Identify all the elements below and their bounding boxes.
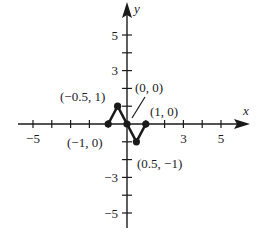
- y-tick-label: 3: [112, 63, 119, 78]
- data-point: [114, 103, 121, 110]
- chart: xy −53553−3−5 (−1, 0)(−0.5, 1)(0, 0)(0.5…: [0, 0, 260, 237]
- point-label: (1, 0): [150, 104, 178, 119]
- y-tick-label: −3: [104, 170, 118, 185]
- data-point: [133, 138, 140, 145]
- x-tick-label: 5: [218, 131, 225, 146]
- x-tick-label: 3: [180, 131, 187, 146]
- point-labels: (−1, 0)(−0.5, 1)(0, 0)(0.5, −1)(1, 0): [60, 80, 182, 171]
- data-point: [142, 120, 149, 127]
- data-point: [123, 120, 130, 127]
- y-axis-label: y: [132, 1, 140, 16]
- point-label: (−1, 0): [67, 135, 103, 150]
- y-tick-label: −5: [104, 206, 118, 221]
- data-point: [105, 120, 112, 127]
- point-label: (−0.5, 1): [60, 89, 105, 104]
- x-tick-label: −5: [26, 131, 40, 146]
- y-tick-label: 5: [112, 28, 119, 43]
- point-label: (0, 0): [135, 80, 163, 95]
- leader-line: [132, 97, 145, 118]
- x-axis-label: x: [242, 103, 249, 118]
- point-label: (0.5, −1): [137, 156, 182, 171]
